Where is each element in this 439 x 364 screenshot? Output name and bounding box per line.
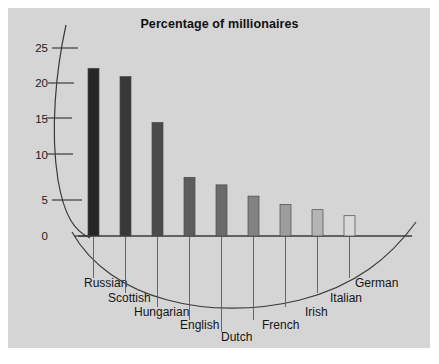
axis-group — [46, 25, 416, 308]
dropline-group — [94, 236, 350, 332]
bar-scottish — [120, 77, 131, 236]
bar-group — [88, 68, 355, 236]
chart-figure: Percentage of millionaires 25 20 15 10 5… — [0, 0, 439, 364]
bar-russian — [88, 68, 99, 236]
bar-hungarian — [152, 122, 163, 236]
bar-irish — [280, 204, 291, 236]
bar-italian — [312, 210, 323, 236]
bar-english — [184, 177, 195, 236]
bar-german — [344, 216, 355, 236]
bar-french — [248, 196, 259, 236]
bar-dutch — [216, 185, 227, 236]
chart-graphics — [0, 0, 439, 364]
